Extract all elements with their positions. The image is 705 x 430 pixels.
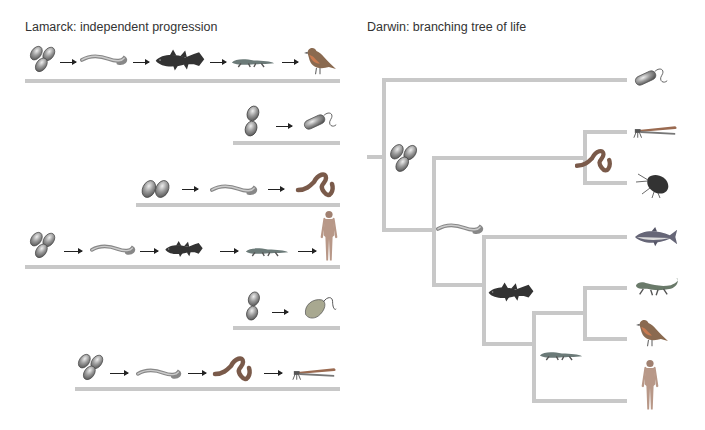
arrow-icon: [264, 373, 282, 374]
bird-icon: [634, 316, 670, 348]
arrow-icon: [220, 251, 238, 252]
row6-baseline: [75, 387, 340, 391]
amphibian-icon: [538, 348, 584, 361]
row5-baseline: [233, 326, 340, 330]
worm-icon: [436, 221, 484, 235]
worm-icon: [136, 366, 182, 380]
dragonfly-icon: [631, 122, 679, 140]
coelacanth-icon: [154, 48, 206, 72]
tree-branch: [382, 228, 432, 232]
cells-icon: [28, 44, 58, 74]
arrow-icon: [276, 126, 292, 127]
arrow-icon: [272, 312, 288, 313]
row2-baseline: [233, 141, 340, 145]
row3-baseline: [136, 203, 340, 207]
arrow-icon: [282, 62, 298, 63]
tree-branch: [482, 235, 627, 239]
earthworm-icon: [575, 146, 613, 176]
tree-branch: [382, 78, 386, 232]
earthworm-icon: [294, 170, 338, 200]
protist-icon: [302, 294, 338, 322]
cells-icon: [28, 230, 58, 260]
tree-branch: [382, 78, 627, 82]
tree-branch: [583, 181, 627, 185]
tree-branch: [482, 235, 486, 346]
tree-branch: [432, 283, 482, 287]
arrow-icon: [133, 62, 149, 63]
earthworm-icon: [212, 354, 254, 384]
worm-icon: [90, 242, 136, 256]
amphibian-icon: [244, 244, 290, 257]
arrow-icon: [210, 62, 226, 63]
dragonfly-icon: [290, 364, 338, 382]
arrow-icon: [298, 251, 316, 252]
cells-icon: [242, 290, 264, 322]
darwin-title: Darwin: branching tree of life: [367, 20, 526, 34]
arrow-icon: [188, 373, 206, 374]
bacterium-icon: [302, 110, 338, 134]
human-icon: [641, 358, 659, 414]
cells-icon: [76, 352, 106, 382]
tree-branch: [583, 130, 627, 134]
lamarck-title: Lamarck: independent progression: [25, 20, 217, 34]
tuna-icon: [632, 226, 682, 248]
human-icon: [320, 210, 338, 264]
tree-branch: [583, 286, 587, 341]
water-flea-icon: [634, 168, 674, 198]
tree-branch: [532, 311, 584, 315]
cells-icon: [140, 178, 172, 200]
arrow-icon: [140, 251, 158, 252]
arrow-icon: [182, 189, 198, 190]
tree-branch: [482, 342, 534, 346]
row1-baseline: [25, 79, 340, 83]
cells-icon: [388, 142, 420, 174]
arrow-icon: [60, 62, 76, 63]
tree-branch: [432, 156, 585, 160]
tree-branch: [532, 399, 627, 403]
coelacanth-icon: [164, 238, 204, 260]
tree-branch: [583, 337, 627, 341]
bird-icon: [302, 44, 338, 76]
tree-branch: [532, 311, 536, 403]
tree-branch: [583, 286, 627, 290]
worm-icon: [210, 182, 258, 196]
row4-baseline: [25, 265, 340, 269]
lizard-icon: [634, 276, 682, 298]
amphibian-icon: [230, 55, 276, 68]
worm-icon: [80, 52, 128, 66]
tree-branch: [367, 155, 382, 159]
cells-icon: [240, 104, 264, 138]
arrow-icon: [268, 189, 284, 190]
arrow-icon: [110, 373, 128, 374]
arrow-icon: [64, 251, 82, 252]
bacterium-icon: [633, 66, 669, 90]
coelacanth-icon: [487, 280, 535, 304]
